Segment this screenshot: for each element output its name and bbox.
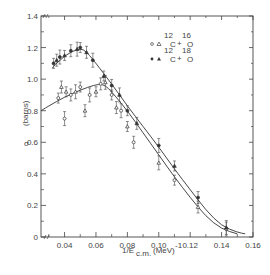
open-circle-marker-icon bbox=[173, 179, 176, 182]
y-axis-unit: (barns) bbox=[21, 100, 30, 126]
y-tick-label: 0 bbox=[34, 233, 39, 242]
x-tick-label: 0.16 bbox=[245, 241, 261, 250]
open-triangle-legend-icon bbox=[157, 42, 161, 46]
x-tick-label: 0.12 bbox=[182, 241, 198, 250]
filled-triangle-legend-icon bbox=[157, 57, 161, 61]
filled-circle-marker-icon bbox=[52, 62, 55, 65]
filled-circle-marker-icon bbox=[58, 56, 61, 59]
open-circle-marker-icon bbox=[132, 141, 135, 144]
x-axis-label-main: 1/E bbox=[122, 246, 134, 255]
open-circle-legend-icon bbox=[151, 43, 154, 46]
open-triangle-marker-icon bbox=[126, 125, 130, 128]
y-tick-label: 1.4 bbox=[27, 12, 39, 21]
x-tick-label: 0.04 bbox=[57, 241, 73, 250]
open-triangle-marker-icon bbox=[64, 90, 68, 93]
x-axis-label-sub: c.m. bbox=[136, 249, 151, 258]
filled-triangle-marker-icon bbox=[63, 54, 67, 57]
filled-circle-legend-icon bbox=[151, 58, 154, 61]
open-circle-marker-icon bbox=[110, 93, 113, 96]
x-axis-label-exp: -1 bbox=[175, 241, 183, 250]
y-axis-ticks: 00.20.40.60.81.01.21.4 bbox=[27, 12, 253, 242]
legend-open-b-mass: 16 bbox=[182, 31, 191, 40]
filled-triangle-marker-icon bbox=[225, 226, 229, 229]
filled-circle-marker-icon bbox=[69, 49, 72, 52]
y-tick-label: 0.2 bbox=[27, 201, 39, 210]
y-axis-symbol: σ bbox=[24, 139, 29, 148]
plot-frame bbox=[41, 16, 253, 237]
fit-curves bbox=[41, 49, 245, 234]
x-axis-ticks: 0.040.060.080.100.120.140.16 bbox=[49, 16, 261, 250]
filled-triangle-marker-icon bbox=[173, 164, 177, 167]
x-tick-label: 0.14 bbox=[214, 241, 230, 250]
filled-circle-marker-icon bbox=[197, 196, 200, 199]
y-axis-title: σ (barns) bbox=[21, 100, 30, 148]
x-tick-label: 0.06 bbox=[88, 241, 104, 250]
filled-circle-marker-icon bbox=[91, 59, 94, 62]
open-circle-marker-icon bbox=[120, 109, 123, 112]
filled-circle-marker-icon bbox=[110, 84, 113, 87]
open-circle-marker-icon bbox=[69, 93, 72, 96]
legend: 12 C + 16 O 12 C + 18 O bbox=[151, 31, 194, 64]
y-tick-label: 1.0 bbox=[27, 75, 39, 84]
fit-curve bbox=[52, 49, 245, 234]
open-circle-marker-icon bbox=[99, 82, 102, 85]
legend-open-a-mass: 12 bbox=[164, 31, 173, 40]
legend-filled-a: C bbox=[170, 55, 176, 64]
filled-circle-marker-icon bbox=[79, 46, 82, 49]
open-triangle-marker-icon bbox=[74, 90, 78, 93]
y-tick-label: 0.4 bbox=[27, 170, 39, 179]
open-triangle-marker-icon bbox=[60, 85, 64, 88]
open-triangle-marker-icon bbox=[157, 161, 161, 164]
legend-filled-b: O bbox=[187, 55, 193, 64]
cross-section-chart: 0.040.060.080.100.120.140.16 00.20.40.60… bbox=[0, 0, 270, 275]
filled-triangle-marker-icon bbox=[55, 58, 59, 61]
open-triangle-marker-icon bbox=[115, 106, 119, 109]
filled-triangle-marker-icon bbox=[75, 47, 79, 50]
open-circle-marker-icon bbox=[79, 86, 82, 89]
legend-filled-b-mass: 18 bbox=[182, 46, 191, 55]
x-axis-label-unit: (MeV) bbox=[153, 246, 175, 255]
open-triangle-marker-icon bbox=[94, 90, 98, 93]
open-circle-marker-icon bbox=[63, 117, 66, 120]
open-triangle-marker-icon bbox=[83, 109, 87, 112]
legend-filled-a-mass: 12 bbox=[164, 46, 173, 55]
filled-circle-marker-icon bbox=[126, 109, 129, 112]
legend-filled-plus: + bbox=[177, 54, 182, 63]
y-tick-label: 1.2 bbox=[27, 44, 39, 53]
data-points bbox=[52, 42, 228, 236]
open-circle-marker-icon bbox=[57, 97, 60, 100]
open-circle-marker-icon bbox=[88, 93, 91, 96]
filled-circle-marker-icon bbox=[157, 144, 160, 147]
